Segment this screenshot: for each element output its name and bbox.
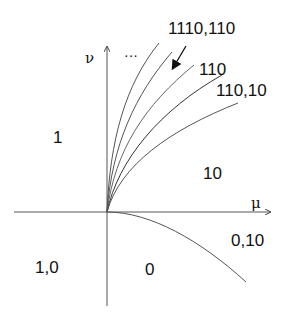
region-label-0: 0: [145, 261, 154, 278]
y-axis-label: ν: [85, 51, 94, 66]
region-label-0-10: 0,10: [231, 232, 264, 249]
region-label-1110-110: 1110,110: [168, 20, 235, 37]
x-axis-label: μ: [251, 196, 261, 211]
region-label-1: 1: [53, 129, 62, 146]
ellipsis: ···: [124, 48, 138, 62]
region-label-1-0: 1,0: [35, 259, 59, 276]
region-label-10: 10: [203, 165, 222, 182]
boundary-curve-3: [107, 65, 194, 212]
boundary-curve-4: [107, 75, 222, 212]
boundary-curve-lower: [107, 212, 246, 282]
region-label-110-10: 110,10: [216, 82, 267, 99]
boundary-curve-5: [107, 103, 238, 212]
pointer-arrow: [173, 46, 186, 68]
phase-diagram: ν μ ··· 1110,110 110 110,10 1 10 0,10 1,…: [0, 0, 284, 319]
region-label-110: 110: [199, 61, 226, 78]
